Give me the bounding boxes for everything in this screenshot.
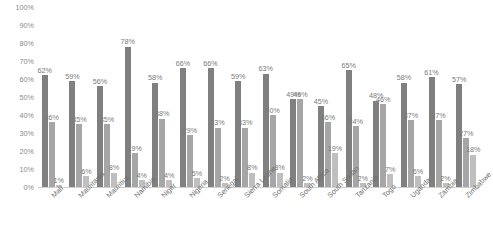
bar-slot: 66% <box>208 8 214 187</box>
x-axis-cell: Somalia <box>259 190 287 248</box>
y-axis-tick: 90% <box>20 22 34 29</box>
x-axis-cell: Mauritania <box>66 190 94 248</box>
bar-slot: 40% <box>270 8 276 187</box>
bar[interactable] <box>187 135 193 187</box>
plot-area: 62%36%1%59%35%6%56%35%8%78%19%4%58%38%4%… <box>38 8 480 188</box>
bar-group: 57%27%18% <box>452 8 480 187</box>
bar-slot: 2% <box>443 8 449 187</box>
bar-slot: 62% <box>42 8 48 187</box>
bar-value-label: 1% <box>54 177 64 184</box>
bar-slot: 34% <box>353 8 359 187</box>
x-axis-cell: Tanzania <box>342 190 370 248</box>
bar[interactable] <box>380 104 386 187</box>
y-axis-tick: 50% <box>20 94 34 101</box>
bar[interactable] <box>104 124 110 187</box>
bar-slot: 65% <box>346 8 352 187</box>
x-axis-cell: Mauritius <box>93 190 121 248</box>
bar-slot: 33% <box>242 8 248 187</box>
bar-slot: 49% <box>297 8 303 187</box>
bar-value-label: 7% <box>385 166 395 173</box>
bar[interactable] <box>429 77 435 187</box>
y-axis-tick: 80% <box>20 40 34 47</box>
bar[interactable] <box>69 81 75 187</box>
bar-group: 48%46%7% <box>370 8 398 187</box>
bar-slot: 58% <box>401 8 407 187</box>
bar[interactable] <box>401 83 407 187</box>
bar-slot: 59% <box>69 8 75 187</box>
bar-groups: 62%36%1%59%35%6%56%35%8%78%19%4%58%38%4%… <box>38 8 480 187</box>
bar-slot: 36% <box>325 8 331 187</box>
bar-slot: 37% <box>408 8 414 187</box>
x-axis-cell: Senegal <box>204 190 232 248</box>
bar[interactable] <box>42 75 48 187</box>
bar-group: 45%36%19% <box>314 8 342 187</box>
bar-group: 49%49%2% <box>287 8 315 187</box>
bar-value-label: 18% <box>466 146 480 153</box>
y-axis-tick: 70% <box>20 58 34 65</box>
bar-group: 61%37%2% <box>425 8 453 187</box>
bar-slot: 78% <box>125 8 131 187</box>
bar[interactable] <box>125 47 131 187</box>
bar-slot: 36% <box>49 8 55 187</box>
bar-slot: 8% <box>249 8 255 187</box>
bar-group: 58%37%6% <box>397 8 425 187</box>
y-axis: 0%10%20%30%40%50%60%70%80%90%100% <box>0 8 36 188</box>
bar-value-label: 6% <box>413 168 423 175</box>
bar[interactable] <box>235 81 241 187</box>
bar-group: 59%35%6% <box>66 8 94 187</box>
x-axis-cell: Togo <box>370 190 398 248</box>
x-axis-cell: Mali <box>38 190 66 248</box>
bar-slot: 45% <box>318 8 324 187</box>
bar-group: 66%33%2% <box>204 8 232 187</box>
x-axis-cell: Sierra Leone <box>231 190 259 248</box>
bar-value-label: 19% <box>328 145 342 152</box>
bar[interactable] <box>242 128 248 187</box>
bar-slot: 56% <box>97 8 103 187</box>
bar-slot: 1% <box>56 8 62 187</box>
bar[interactable] <box>152 83 158 187</box>
bar-slot: 37% <box>436 8 442 187</box>
bar-slot: 8% <box>277 8 283 187</box>
bar-slot: 58% <box>152 8 158 187</box>
y-axis-tick: 100% <box>16 4 34 11</box>
bar-slot: 29% <box>187 8 193 187</box>
bar-value-label: 4% <box>164 172 174 179</box>
bar-slot: 27% <box>463 8 469 187</box>
bar-slot: 5% <box>194 8 200 187</box>
x-axis-cell: Namibia <box>121 190 149 248</box>
bar[interactable] <box>290 99 296 187</box>
bar-group: 65%34%2% <box>342 8 370 187</box>
bar-group: 58%38%4% <box>149 8 177 187</box>
x-axis-cell: Zimbabwe <box>452 190 480 248</box>
bar-group: 66%29%5% <box>176 8 204 187</box>
y-axis-tick: 60% <box>20 76 34 83</box>
bar-slot: 8% <box>111 8 117 187</box>
bar[interactable] <box>76 124 82 187</box>
bar-slot: 63% <box>263 8 269 187</box>
bar-slot: 57% <box>456 8 462 187</box>
bar-slot: 46% <box>380 8 386 187</box>
bar-slot: 66% <box>180 8 186 187</box>
y-axis-tick: 0% <box>24 184 34 191</box>
bar-group: 56%35%8% <box>93 8 121 187</box>
bar-value-label: 8% <box>109 164 119 171</box>
bar-slot: 6% <box>83 8 89 187</box>
bar-slot: 38% <box>159 8 165 187</box>
bar-value-label: 6% <box>81 168 91 175</box>
x-axis-cell: South Africa <box>287 190 315 248</box>
bar[interactable] <box>408 120 414 187</box>
bar-slot: 2% <box>360 8 366 187</box>
bar-slot: 59% <box>235 8 241 187</box>
x-axis-labels: MaliMauritaniaMauritiusNamibiaNigerNiger… <box>38 190 480 248</box>
bar-slot: 18% <box>470 8 476 187</box>
x-axis-cell: Nigeria <box>176 190 204 248</box>
y-axis-tick: 30% <box>20 130 34 137</box>
bar-group: 63%40%8% <box>259 8 287 187</box>
y-axis-tick: 10% <box>20 166 34 173</box>
x-axis-cell: Niger <box>149 190 177 248</box>
bar[interactable] <box>208 68 214 187</box>
bar-slot: 61% <box>429 8 435 187</box>
bar-value-label: 5% <box>192 170 202 177</box>
bar-slot: 6% <box>415 8 421 187</box>
bar-slot: 19% <box>332 8 338 187</box>
